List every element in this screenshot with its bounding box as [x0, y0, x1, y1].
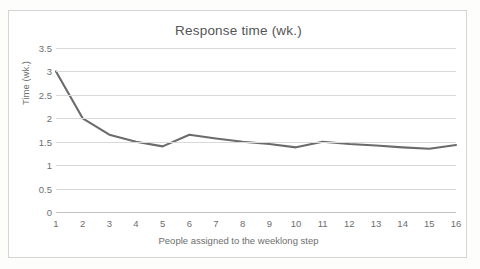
y-tick-label: 3.5 — [12, 43, 52, 54]
x-tick-label: 4 — [121, 218, 151, 229]
x-axis-baseline — [56, 212, 456, 213]
x-tick-label: 5 — [148, 218, 178, 229]
x-tick-label: 2 — [68, 218, 98, 229]
chart-container: Response time (wk.) Time (wk.) 3.532.521… — [8, 10, 467, 258]
x-tick-label: 15 — [414, 218, 444, 229]
chart-title: Response time (wk.) — [9, 23, 468, 38]
x-tick-label: 12 — [334, 218, 364, 229]
x-tick-label: 8 — [228, 218, 258, 229]
x-tick-label: 14 — [388, 218, 418, 229]
plot-area: 3.532.521.510.5012345678910111213141516 — [56, 48, 456, 212]
y-tick-label: 2.5 — [12, 89, 52, 100]
gridline — [56, 71, 456, 72]
x-tick-label: 13 — [361, 218, 391, 229]
x-axis-title: People assigned to the weeklong step — [9, 235, 468, 246]
x-tick-label: 16 — [441, 218, 471, 229]
gridline — [56, 48, 456, 49]
x-tick-label: 6 — [174, 218, 204, 229]
gridline — [56, 142, 456, 143]
line-series-response-time — [56, 48, 456, 212]
gridline — [56, 165, 456, 166]
x-tick-label: 7 — [201, 218, 231, 229]
x-tick-label: 10 — [281, 218, 311, 229]
y-tick-label: 0 — [12, 207, 52, 218]
gridline — [56, 95, 456, 96]
series-line — [56, 71, 456, 148]
x-tick-label: 1 — [41, 218, 71, 229]
x-tick-label: 3 — [94, 218, 124, 229]
y-tick-label: 0.5 — [12, 183, 52, 194]
x-tick-label: 11 — [308, 218, 338, 229]
gridline — [56, 189, 456, 190]
gridline — [56, 118, 456, 119]
y-tick-label: 1.5 — [12, 136, 52, 147]
y-tick-label: 1 — [12, 160, 52, 171]
x-tick-label: 9 — [254, 218, 284, 229]
y-tick-label: 2 — [12, 113, 52, 124]
y-tick-label: 3 — [12, 66, 52, 77]
